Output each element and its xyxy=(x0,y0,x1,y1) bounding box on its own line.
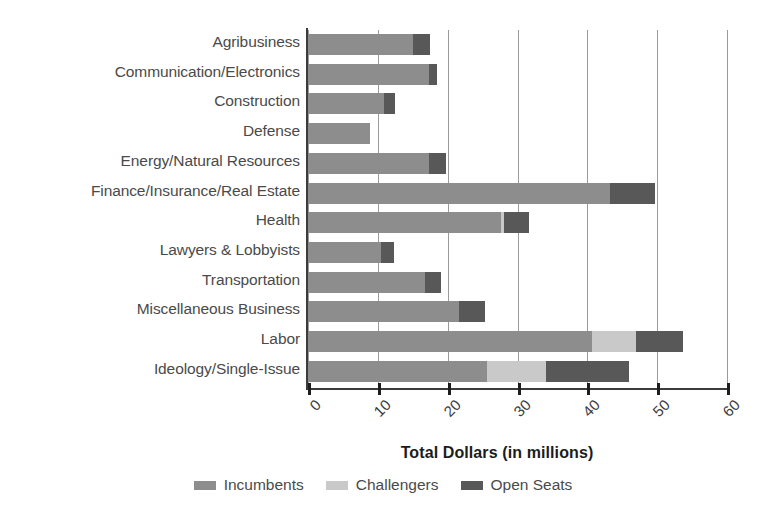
legend-item-incumbents[interactable]: Incumbents xyxy=(194,476,304,494)
bar-chart: AgribusinessCommunication/ElectronicsCon… xyxy=(0,0,766,519)
category-label-8: Transportation xyxy=(0,271,300,289)
bar-row xyxy=(308,238,727,268)
bar-row xyxy=(308,119,727,149)
bar-segment-incumbents xyxy=(308,64,429,85)
bar-row xyxy=(308,179,727,209)
bar-segment-incumbents xyxy=(308,183,610,204)
category-label-7: Lawyers & Lobbyists xyxy=(0,241,300,259)
x-tick-20 xyxy=(448,383,451,395)
category-label-11: Ideology/Single-Issue xyxy=(0,360,300,378)
category-label-0: Agribusiness xyxy=(0,33,300,51)
x-tick-0 xyxy=(308,383,311,395)
bar-row xyxy=(308,30,727,60)
bar-row xyxy=(308,357,727,387)
bar-segment-open-seats xyxy=(425,272,441,293)
bar-segment-open-seats xyxy=(384,93,395,114)
x-tick-label-10: 10 xyxy=(346,396,393,443)
legend-label: Challengers xyxy=(356,476,439,494)
legend-label: Open Seats xyxy=(491,476,573,494)
bar-segment-open-seats xyxy=(504,212,529,233)
bar-segment-incumbents xyxy=(308,301,459,322)
legend-item-challengers[interactable]: Challengers xyxy=(326,476,439,494)
bar-row xyxy=(308,149,727,179)
gridline-60 xyxy=(727,30,728,386)
bar-segment-open-seats xyxy=(381,242,394,263)
bar-segment-open-seats xyxy=(610,183,655,204)
bar-row xyxy=(308,208,727,238)
bar-row xyxy=(308,297,727,327)
bar-row xyxy=(308,327,727,357)
legend-label: Incumbents xyxy=(224,476,304,494)
bar-segment-open-seats xyxy=(413,34,430,55)
bar-segment-challengers xyxy=(592,331,635,352)
x-tick-label-0: 0 xyxy=(277,396,324,443)
bar-segment-open-seats xyxy=(429,153,446,174)
category-label-9: Miscellaneous Business xyxy=(0,300,300,318)
bar-segment-open-seats xyxy=(429,64,437,85)
x-axis-title: Total Dollars (in millions) xyxy=(0,444,766,462)
bar-segment-open-seats xyxy=(636,331,683,352)
x-tick-30 xyxy=(518,383,521,395)
x-tick-label-40: 40 xyxy=(556,396,603,443)
bar-segment-incumbents xyxy=(308,123,370,144)
x-tick-label-30: 30 xyxy=(486,396,533,443)
x-tick-label-50: 50 xyxy=(626,396,673,443)
category-label-5: Finance/Insurance/Real Estate xyxy=(0,182,300,200)
bar-segment-incumbents xyxy=(308,361,487,382)
legend-swatch-icon xyxy=(326,481,348,490)
x-tick-50 xyxy=(657,383,660,395)
bar-row xyxy=(308,60,727,90)
bar-segment-incumbents xyxy=(308,331,592,352)
category-label-6: Health xyxy=(0,211,300,229)
bar-segment-challengers xyxy=(487,361,546,382)
category-label-10: Labor xyxy=(0,330,300,348)
x-tick-60 xyxy=(727,383,730,395)
bar-segment-incumbents xyxy=(308,93,384,114)
x-tick-40 xyxy=(587,383,590,395)
x-tick-label-20: 20 xyxy=(416,396,463,443)
category-label-2: Construction xyxy=(0,92,300,110)
chart-legend: IncumbentsChallengersOpen Seats xyxy=(0,476,766,494)
bar-segment-incumbents xyxy=(308,34,413,55)
bar-segment-incumbents xyxy=(308,212,501,233)
bar-segment-incumbents xyxy=(308,153,429,174)
bar-segment-incumbents xyxy=(308,272,425,293)
bar-segment-open-seats xyxy=(546,361,629,382)
x-tick-10 xyxy=(378,383,381,395)
bar-segment-incumbents xyxy=(308,242,381,263)
legend-swatch-icon xyxy=(194,481,216,490)
category-label-4: Energy/Natural Resources xyxy=(0,152,300,170)
x-tick-label-60: 60 xyxy=(696,396,743,443)
bar-row xyxy=(308,89,727,119)
x-axis-line xyxy=(306,388,727,390)
bar-row xyxy=(308,268,727,298)
legend-swatch-icon xyxy=(461,481,483,490)
category-label-1: Communication/Electronics xyxy=(0,63,300,81)
legend-item-open-seats[interactable]: Open Seats xyxy=(461,476,573,494)
x-axis-title-text: Total Dollars (in millions) xyxy=(401,444,594,461)
category-label-3: Defense xyxy=(0,122,300,140)
bar-segment-open-seats xyxy=(459,301,486,322)
